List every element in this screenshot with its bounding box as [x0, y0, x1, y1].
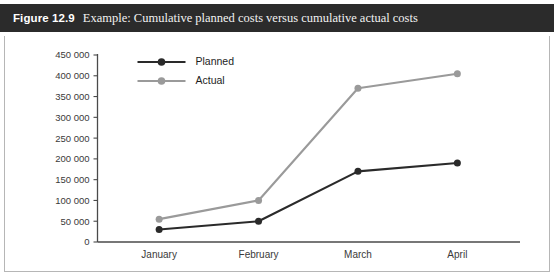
figure-caption-text: Example: Cumulative planned costs versus… — [83, 11, 418, 26]
x-axis-tick-label: February — [239, 249, 279, 260]
y-axis-tick-label: 450 000 — [55, 49, 89, 60]
legend-label: Actual — [196, 74, 225, 86]
legend-marker — [158, 58, 166, 66]
data-point: Planned February: 50000 — [255, 218, 262, 225]
legend-item-actual: Actual — [138, 74, 225, 86]
y-axis-tick-label: 0 — [84, 236, 89, 247]
y-axis-tick-label: 300 000 — [55, 112, 89, 123]
data-point: Actual January: 55000 — [156, 216, 163, 223]
legend-label: Planned — [196, 55, 235, 67]
series-line — [159, 163, 457, 229]
y-axis-tick-label: 350 000 — [55, 91, 89, 102]
data-point: Planned January: 30000 — [156, 226, 163, 233]
y-axis-tick-label: 200 000 — [55, 153, 89, 164]
data-point: Actual March: 370000 — [354, 85, 361, 92]
data-point: Actual February: 100000 — [255, 197, 262, 204]
figure-number-label: Figure 12.9 — [13, 12, 75, 24]
x-axis-tick-label: January — [141, 249, 177, 260]
y-axis-tick-label: 400 000 — [55, 70, 89, 81]
x-axis-tick-label: March — [344, 249, 372, 260]
y-axis-tick-label: 50 000 — [60, 216, 89, 227]
data-point: Planned April: 190000 — [454, 160, 461, 167]
figure-container: Figure 12.9 Example: Cumulative planned … — [0, 0, 554, 278]
y-axis-tick-label: 100 000 — [55, 195, 89, 206]
y-axis-tick-labels: 050 000100 000150 000200 000250 000300 0… — [55, 49, 89, 247]
x-axis-tick-label: April — [447, 249, 467, 260]
series-planned: Planned January: 30000Planned February: … — [156, 160, 461, 233]
y-axis-tick-label: 150 000 — [55, 174, 89, 185]
chart-legend: PlannedActual — [138, 55, 235, 86]
chart-series-layer: Planned January: 30000Planned February: … — [156, 70, 461, 233]
legend-marker — [158, 77, 166, 85]
legend-item-planned: Planned — [138, 55, 235, 67]
line-chart: 050 000100 000150 000200 000250 000300 0… — [5, 36, 551, 272]
figure-caption-bar: Figure 12.9 Example: Cumulative planned … — [0, 4, 554, 32]
series-actual: Actual January: 55000Actual February: 10… — [156, 70, 461, 222]
x-axis-tick-labels: JanuaryFebruaryMarchApril — [141, 249, 467, 260]
chart-panel: 050 000100 000150 000200 000250 000300 0… — [4, 36, 550, 272]
y-axis-tick-label: 250 000 — [55, 133, 89, 144]
data-point: Planned March: 170000 — [354, 168, 361, 175]
data-point: Actual April: 405000 — [454, 70, 461, 77]
